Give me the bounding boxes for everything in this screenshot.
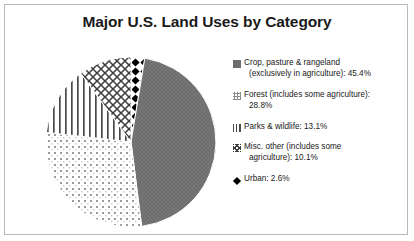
dotted-square-swatch-icon xyxy=(233,92,241,100)
legend-label-parks: Parks & wildlife: 13.1% xyxy=(244,121,405,132)
diamond-swatch-icon xyxy=(233,177,241,185)
legend-label-misc: Misc. other (includes some agriculture):… xyxy=(244,141,405,164)
pie-slice-crop xyxy=(131,58,216,226)
crosshatch-swatch-icon xyxy=(233,144,241,152)
legend-item-crop[interactable]: Crop, pasture & rangeland (exclusively i… xyxy=(233,57,405,80)
legend-label-urban: Urban: 2.6% xyxy=(244,173,405,184)
solid-square-swatch-icon xyxy=(233,60,241,68)
vertical-stripe-swatch-icon xyxy=(233,124,241,132)
legend-label-crop: Crop, pasture & rangeland (exclusively i… xyxy=(244,57,405,80)
chart-legend: Crop, pasture & rangeland (exclusively i… xyxy=(233,57,405,194)
legend-item-urban[interactable]: Urban: 2.6% xyxy=(233,173,405,185)
chart-frame: Major U.S. Land Uses by Category xyxy=(4,4,408,235)
legend-item-parks[interactable]: Parks & wildlife: 13.1% xyxy=(233,121,405,132)
pie-slice-forest xyxy=(46,132,142,227)
chart-title: Major U.S. Land Uses by Category xyxy=(5,13,409,31)
legend-item-forest[interactable]: Forest (includes some agriculture): 28.8… xyxy=(233,89,405,112)
pie-svg xyxy=(41,49,227,235)
legend-label-forest: Forest (includes some agriculture): 28.8… xyxy=(244,89,405,112)
pie-chart xyxy=(41,49,227,235)
legend-item-misc[interactable]: Misc. other (includes some agriculture):… xyxy=(233,141,405,164)
